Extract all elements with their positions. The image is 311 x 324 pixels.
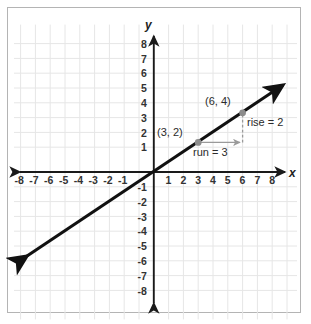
y-tick-neg8: -8	[138, 286, 147, 297]
y-tick-neg1: -1	[138, 182, 147, 193]
point-label-3-2: (3, 2)	[157, 127, 183, 138]
y-axis-label: y	[145, 19, 152, 31]
y-tick-neg7: -7	[138, 271, 147, 282]
x-tick-neg7: -7	[29, 175, 38, 186]
x-tick-neg3: -3	[89, 175, 98, 186]
y-tick-6: 6	[141, 68, 147, 79]
x-tick-neg1: -1	[118, 175, 127, 186]
y-tick-2: 2	[141, 128, 147, 139]
point-marker-6-4	[239, 109, 246, 116]
y-tick-neg3: -3	[138, 212, 147, 223]
y-tick-5: 5	[141, 83, 147, 94]
y-tick-3: 3	[141, 113, 147, 124]
y-tick-neg4: -4	[138, 226, 147, 237]
y-tick-7: 7	[141, 54, 147, 65]
x-tick-neg2: -2	[103, 175, 112, 186]
x-tick-8: 8	[269, 175, 275, 186]
x-tick-2: 2	[180, 175, 186, 186]
y-tick-1: 1	[141, 142, 147, 153]
coordinate-plane: -8 -7 -6 -5 -4 -3 -2 -1 1 2 3 4 5 6 7 8 …	[0, 0, 311, 324]
x-axis-label: x	[289, 167, 296, 179]
y-tick-8: 8	[141, 39, 147, 50]
x-tick-7: 7	[254, 175, 260, 186]
x-tick-1: 1	[166, 175, 172, 186]
y-tick-neg6: -6	[138, 256, 147, 267]
graph-page: -8 -7 -6 -5 -4 -3 -2 -1 1 2 3 4 5 6 7 8 …	[0, 0, 311, 324]
y-tick-neg2: -2	[138, 197, 147, 208]
x-tick-neg4: -4	[74, 175, 83, 186]
rise-label: rise = 2	[247, 117, 283, 128]
x-tick-neg6: -6	[44, 175, 53, 186]
y-tick-4: 4	[141, 98, 147, 109]
x-tick-6: 6	[240, 175, 246, 186]
run-label: run = 3	[193, 147, 228, 158]
x-tick-4: 4	[210, 175, 216, 186]
point-label-6-4: (6, 4)	[205, 96, 231, 107]
x-tick-neg8: -8	[15, 175, 24, 186]
point-marker-3-2	[195, 139, 202, 146]
x-tick-5: 5	[225, 175, 231, 186]
y-tick-neg5: -5	[138, 241, 147, 252]
graph-canvas	[0, 0, 311, 324]
x-tick-neg5: -5	[59, 175, 68, 186]
x-tick-3: 3	[195, 175, 201, 186]
